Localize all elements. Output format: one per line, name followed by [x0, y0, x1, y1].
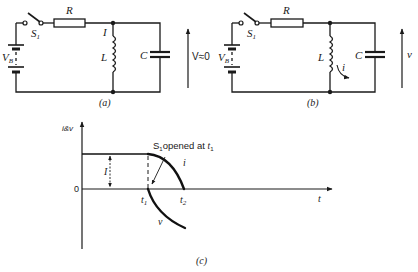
capacitor-symbol: [365, 52, 385, 57]
label-l: L: [100, 51, 107, 63]
y-axis-label: i&v: [62, 124, 74, 133]
label-voltage: v: [407, 48, 412, 60]
wire: [85, 23, 160, 52]
origin-label: 0: [74, 184, 79, 194]
t1-label: t1: [141, 194, 147, 207]
capacitor-symbol: [150, 52, 170, 57]
label-r: R: [65, 4, 73, 16]
junction-dot: [328, 90, 332, 94]
label-r: R: [282, 4, 290, 16]
wire: [16, 56, 160, 92]
x-axis-label: t: [318, 193, 321, 204]
curve-i-label: i: [183, 157, 186, 168]
annotation-arrow-icon: [152, 157, 165, 184]
curve-v-label: v: [158, 216, 163, 227]
label-s1: S1: [247, 27, 256, 41]
level-label: I: [103, 166, 108, 177]
resistor-symbol: [54, 19, 85, 27]
label-c: C: [140, 49, 148, 61]
inductor-symbol: [330, 36, 333, 72]
wire: [303, 23, 375, 52]
label-current-i: i: [342, 61, 345, 73]
label-c: C: [355, 49, 363, 61]
caption-a: (a): [99, 97, 111, 109]
caption-b: (b): [307, 97, 319, 109]
label-vb: VB: [2, 51, 14, 65]
curve-i: [148, 154, 184, 189]
label-current-i: I: [102, 26, 108, 38]
inductor-symbol: [113, 36, 116, 72]
resistor-symbol: [271, 19, 303, 27]
junction-dot: [111, 90, 115, 94]
label-voltage: V≈0: [192, 51, 210, 62]
switch-s1: [23, 13, 43, 25]
circuit-a: R S1 VB I L C V≈0 (a): [2, 4, 210, 109]
t2-label: t2: [180, 194, 187, 207]
lc-circuit-figure: R S1 VB I L C V≈0 (a): [0, 0, 418, 272]
junction-dot: [328, 21, 332, 25]
label-vb: VB: [218, 51, 230, 65]
wire: [232, 56, 375, 92]
graph-c: i&v 0 I t1 t2 t S1opened at t1 i v (c): [62, 122, 332, 267]
junction-dot: [111, 21, 115, 25]
annotation-label: S1opened at t1: [153, 140, 214, 152]
label-l: L: [317, 51, 324, 63]
caption-c: (c): [196, 255, 208, 267]
label-s1: S1: [31, 27, 40, 41]
circuit-b: R S1 VB L i C v (b): [218, 4, 412, 109]
switch-s1: [239, 13, 259, 25]
